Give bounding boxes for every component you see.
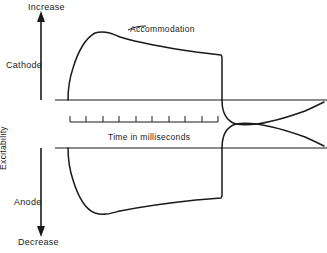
- decrease-axis-arrow: [37, 148, 45, 237]
- increase-axis-arrow: [37, 11, 45, 100]
- decrease-label: Decrease: [18, 237, 59, 247]
- figure-canvas: [0, 0, 327, 253]
- cathode-excitability-curve: [68, 32, 222, 100]
- excitability-accommodation-figure: Increase Cathode Accommodation Time in m…: [0, 0, 327, 253]
- cathode-label: Cathode: [6, 60, 42, 70]
- anode-break-overshoot-curve: [222, 123, 324, 148]
- excitability-axis-label: Excitability: [0, 118, 8, 178]
- anode-label: Anode: [14, 197, 42, 207]
- time-scale-bar: [70, 116, 218, 122]
- anode-excitability-curve: [68, 148, 222, 214]
- accommodation-label: Accommodation: [130, 24, 195, 34]
- time-axis-label: Time in milliseconds: [108, 132, 190, 142]
- cathode-break-undershoot-curve: [222, 100, 324, 125]
- increase-label: Increase: [28, 2, 65, 12]
- scale-ticks: [70, 116, 218, 122]
